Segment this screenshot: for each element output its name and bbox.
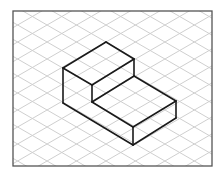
object-edge — [134, 76, 176, 101]
object-edge — [63, 103, 133, 145]
stepped-block-object — [63, 42, 176, 145]
object-edge — [133, 101, 176, 127]
isometric-grid — [3, 0, 222, 175]
object-edge — [63, 68, 92, 85]
isometric-diagram — [0, 0, 224, 175]
